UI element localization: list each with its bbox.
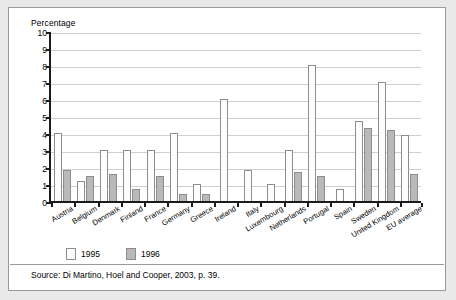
bar-1996 bbox=[364, 128, 372, 201]
bar-group bbox=[167, 31, 190, 201]
bar-series-container bbox=[51, 31, 421, 201]
bar-1996 bbox=[202, 194, 210, 201]
bar-1995 bbox=[401, 135, 409, 201]
x-axis-label-greece: Greece bbox=[189, 204, 215, 225]
bar-group bbox=[190, 31, 213, 201]
bar-1995 bbox=[220, 99, 228, 201]
bar-1996 bbox=[410, 174, 418, 201]
bar-group bbox=[236, 31, 259, 201]
y-axis-title: Percentage bbox=[31, 18, 75, 28]
chart-legend: 19951996 bbox=[66, 248, 160, 260]
bar-group bbox=[398, 31, 421, 201]
bar-1996 bbox=[109, 174, 117, 201]
bar-group bbox=[74, 31, 97, 201]
figure-panel: Percentage 012345678910 AustriaBelgiumDe… bbox=[8, 7, 446, 291]
plot-area bbox=[49, 33, 421, 203]
bar-1996 bbox=[294, 172, 302, 201]
bar-1996 bbox=[156, 176, 164, 202]
bar-group bbox=[97, 31, 120, 201]
bar-group bbox=[120, 31, 143, 201]
bar-1996 bbox=[63, 170, 71, 201]
legend-label-1995: 1995 bbox=[81, 249, 100, 259]
bar-group bbox=[305, 31, 328, 201]
bar-1995 bbox=[378, 82, 386, 201]
bar-group bbox=[282, 31, 305, 201]
bar-1995 bbox=[170, 133, 178, 201]
bar-1995 bbox=[193, 184, 201, 201]
legend-item-1996: 1996 bbox=[126, 248, 160, 260]
bar-group bbox=[51, 31, 74, 201]
bar-group bbox=[259, 31, 282, 201]
x-axis-tick bbox=[421, 203, 423, 207]
bar-1996 bbox=[317, 176, 325, 202]
bar-1995 bbox=[355, 121, 363, 201]
legend-swatch-1996 bbox=[126, 248, 136, 260]
bar-1996 bbox=[86, 176, 94, 202]
legend-label-1996: 1996 bbox=[141, 249, 160, 259]
x-axis-label-ireland: Ireland bbox=[213, 204, 238, 224]
bar-1995 bbox=[267, 184, 275, 201]
x-axis-label-finland: Finland bbox=[119, 204, 145, 225]
bar-1995 bbox=[147, 150, 155, 201]
x-axis-category-labels: AustriaBelgiumDenmarkFinlandFranceGerman… bbox=[49, 204, 421, 248]
bar-1995 bbox=[54, 133, 62, 201]
bar-group bbox=[213, 31, 236, 201]
bar-1995 bbox=[244, 170, 252, 201]
bar-1995 bbox=[77, 181, 85, 201]
bar-1995 bbox=[123, 150, 131, 201]
bar-1995 bbox=[336, 189, 344, 201]
bar-1995 bbox=[285, 150, 293, 201]
bar-1995 bbox=[308, 65, 316, 201]
bar-1996 bbox=[179, 194, 187, 201]
bar-group bbox=[375, 31, 398, 201]
y-axis-tick-labels: 012345678910 bbox=[27, 33, 47, 203]
legend-swatch-1995 bbox=[66, 248, 76, 260]
legend-item-1995: 1995 bbox=[66, 248, 100, 260]
x-axis-label-portugal: Portugal bbox=[302, 204, 331, 226]
bar-group bbox=[144, 31, 167, 201]
source-note: Source: Di Martino, Hoel and Cooper, 200… bbox=[31, 270, 220, 280]
bar-group bbox=[352, 31, 375, 201]
bar-1995 bbox=[100, 150, 108, 201]
bar-1996 bbox=[387, 130, 395, 201]
source-divider bbox=[10, 264, 444, 265]
bar-1996 bbox=[132, 189, 140, 201]
bar-group bbox=[329, 31, 352, 201]
